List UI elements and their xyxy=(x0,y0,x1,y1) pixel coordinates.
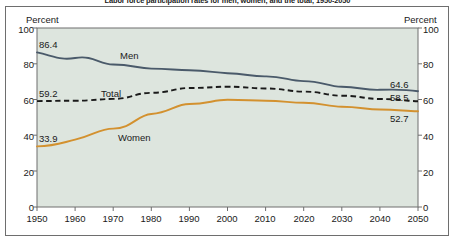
series-label-women: Women xyxy=(118,132,151,143)
value-label-total-end: 58.5 xyxy=(390,92,409,103)
value-label-women-start: 33.9 xyxy=(39,133,58,144)
value-label-total-start: 59.2 xyxy=(39,88,58,99)
plot-background xyxy=(37,28,418,207)
y-axis-ticks-left xyxy=(33,28,37,207)
chart-figure: Labor force participation rates for men,… xyxy=(0,0,455,242)
value-label-men-end: 64.6 xyxy=(390,79,409,90)
x-axis-ticks xyxy=(37,207,418,211)
plot-area xyxy=(0,0,455,242)
value-label-women-end: 52.7 xyxy=(390,113,409,124)
value-label-men-start: 86.4 xyxy=(39,39,58,50)
y-axis-ticks-right xyxy=(418,28,422,207)
series-label-men: Men xyxy=(120,50,138,61)
series-label-total: Total xyxy=(101,88,121,99)
